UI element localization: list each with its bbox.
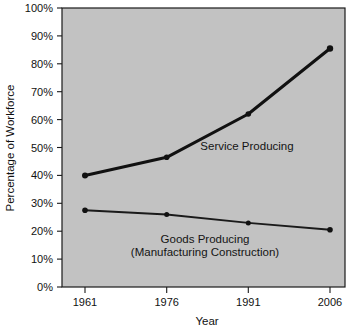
y-tick-label-90: 90% (31, 30, 53, 42)
data-point-service-1961 (82, 172, 88, 178)
data-point-goods-1991 (246, 220, 251, 225)
y-tick-label-50: 50% (31, 142, 53, 154)
y-tick-label-0: 0% (37, 281, 53, 293)
x-tick-label-1976: 1976 (154, 296, 178, 308)
data-point-goods-1976 (164, 212, 169, 217)
x-axis-title: Year (195, 315, 218, 327)
y-tick-label-40: 40% (31, 169, 53, 181)
y-tick-label-80: 80% (31, 58, 53, 70)
data-point-goods-1961 (82, 208, 88, 214)
series-annotation-service-producing: Service Producing (200, 140, 293, 152)
y-axis-ticks (57, 8, 62, 287)
series-annotation-goods-producing-sub: (Manufacturing Construction) (131, 246, 279, 258)
data-point-service-1976 (164, 155, 170, 161)
x-axis-tick-labels: 1961 1976 1991 2006 (73, 296, 342, 308)
data-point-goods-2006 (327, 227, 333, 233)
x-tick-label-2006: 2006 (318, 296, 342, 308)
chart-canvas: 100% 90% 80% 70% 60% 50% 40% 30% 20% 10%… (0, 0, 357, 332)
y-tick-label-10: 10% (31, 253, 53, 265)
data-point-service-1991 (246, 111, 252, 117)
series-annotation-goods-producing: Goods Producing (161, 233, 250, 245)
x-tick-label-1961: 1961 (73, 296, 97, 308)
data-point-service-2006 (327, 45, 333, 51)
y-axis-tick-labels: 100% 90% 80% 70% 60% 50% 40% 30% 20% 10%… (25, 2, 53, 293)
y-tick-label-100: 100% (25, 2, 53, 14)
workforce-line-chart: 100% 90% 80% 70% 60% 50% 40% 30% 20% 10%… (0, 0, 357, 332)
y-tick-label-60: 60% (31, 114, 53, 126)
x-axis-ticks (85, 287, 330, 293)
y-tick-label-20: 20% (31, 225, 53, 237)
y-tick-label-30: 30% (31, 197, 53, 209)
y-axis-title: Percentage of Workforce (4, 85, 16, 212)
y-tick-label-70: 70% (31, 86, 53, 98)
x-tick-label-1991: 1991 (236, 296, 260, 308)
